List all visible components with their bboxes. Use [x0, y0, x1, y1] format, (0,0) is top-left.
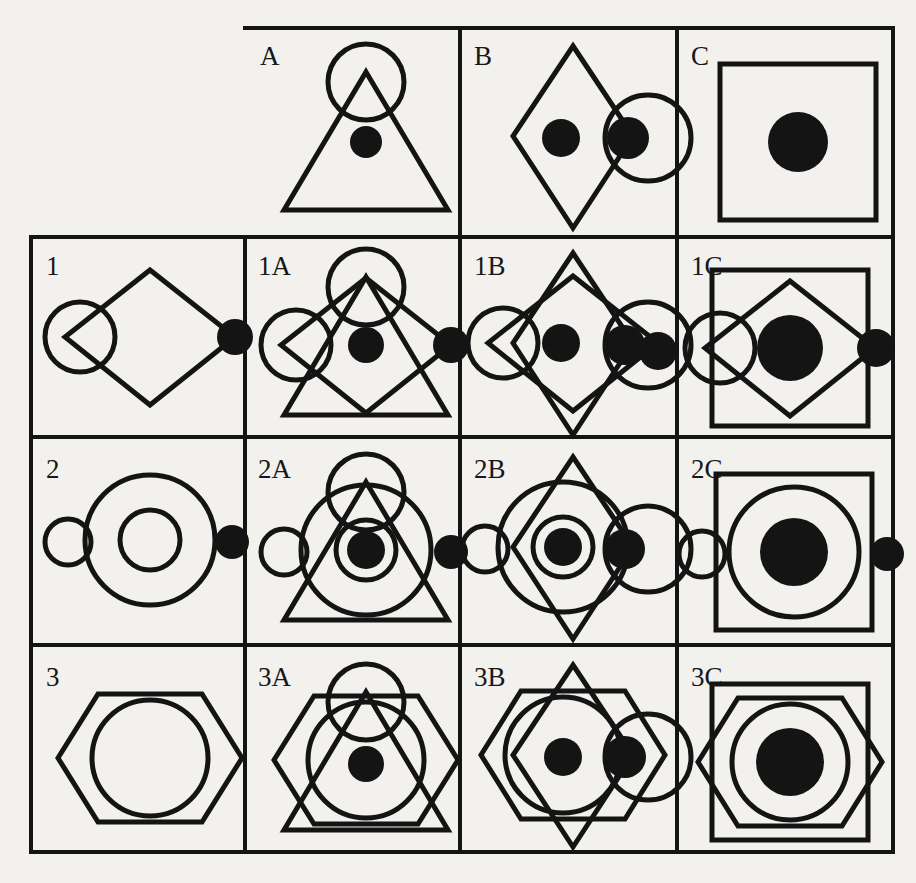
- row-label-2: 2: [46, 454, 60, 484]
- filled-dot-right-edge-icon: [607, 117, 649, 159]
- header-label-C: C: [691, 41, 709, 71]
- shape-matrix-figure: A B C 1 1A: [0, 0, 916, 883]
- cell-label-3B: 3B: [474, 662, 506, 692]
- filled-dot-right-vertex-icon: [639, 332, 677, 370]
- cell-label-3C: 3C: [691, 662, 723, 692]
- filled-dot-center-icon: [347, 531, 385, 569]
- filled-dot-center-icon: [544, 528, 582, 566]
- filled-dot-right-edge-icon: [604, 736, 646, 778]
- small-filled-dot-right-icon: [215, 525, 249, 559]
- filled-dot-right-vertex-icon: [433, 327, 469, 363]
- small-filled-dot-right-icon: [870, 537, 904, 571]
- cell-label-1B: 1B: [474, 251, 506, 281]
- header-label-A: A: [260, 41, 280, 71]
- row-label-1: 1: [46, 251, 60, 281]
- large-filled-dot-center-icon: [768, 112, 828, 172]
- filled-dot-center-icon: [348, 746, 384, 782]
- filled-dot-center-icon: [348, 327, 384, 363]
- large-filled-dot-center-icon: [760, 518, 828, 586]
- header-label-B: B: [474, 41, 492, 71]
- filled-dot-right-vertex-icon: [217, 319, 253, 355]
- filled-dot-center-icon: [542, 119, 580, 157]
- cell-label-1C: 1C: [691, 251, 723, 281]
- filled-dot-center-icon: [544, 738, 582, 776]
- cell-label-2B: 2B: [474, 454, 506, 484]
- filled-dot-right-edge-icon: [605, 325, 645, 365]
- row-label-3: 3: [46, 662, 60, 692]
- filled-dot-center-icon: [542, 324, 580, 362]
- cell-label-2A: 2A: [258, 454, 292, 484]
- cell-label-1A: 1A: [258, 251, 292, 281]
- filled-dot-right-edge-icon: [605, 529, 645, 569]
- large-filled-dot-center-icon: [757, 315, 823, 381]
- filled-dot-center-icon: [350, 126, 382, 158]
- cell-label-3A: 3A: [258, 662, 292, 692]
- large-filled-dot-center-icon: [756, 728, 824, 796]
- filled-dot-right-vertex-icon: [857, 329, 895, 367]
